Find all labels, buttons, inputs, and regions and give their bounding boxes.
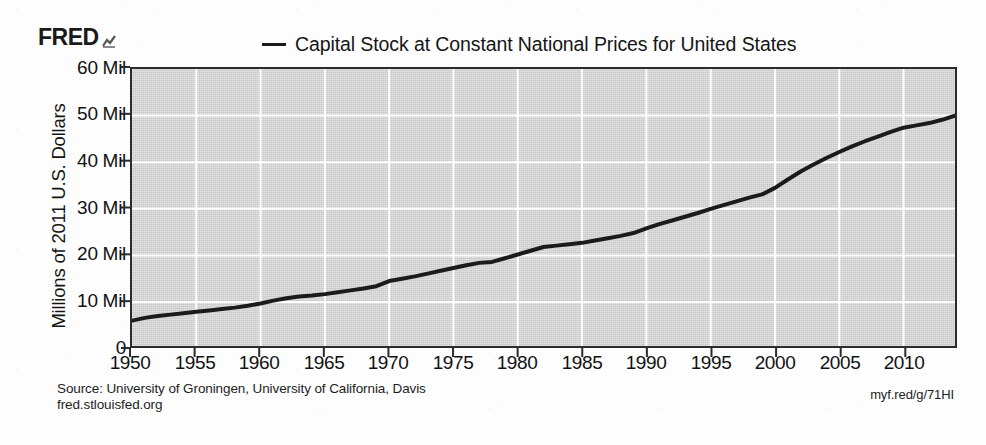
plot-area [130, 67, 957, 348]
legend-series-label: Capital Stock at Constant National Price… [295, 33, 796, 56]
chart-canvas [132, 69, 955, 348]
series-line [132, 116, 955, 321]
chart-legend: Capital Stock at Constant National Price… [262, 33, 796, 56]
y-tick-40: 40 Mil [30, 150, 126, 172]
y-tick-30: 30 Mil [30, 197, 126, 219]
series-layer [132, 116, 955, 321]
y-axis-tick-labels: 0 10 Mil 20 Mil 30 Mil 40 Mil 50 Mil 60 … [26, 0, 126, 445]
source-note: Source: University of Groningen, Univers… [57, 381, 426, 412]
x-tick-2000: 2000 [755, 352, 796, 374]
x-tick-2005: 2005 [820, 352, 861, 374]
y-tick-10: 10 Mil [30, 290, 126, 312]
fred-chart-screenshot: FRED Capital Stock at Constant National … [0, 0, 986, 445]
legend-line-marker-icon [262, 43, 286, 46]
fred-site-url[interactable]: fred.stlouisfed.org [57, 397, 426, 413]
x-tick-1965: 1965 [304, 352, 345, 374]
x-tick-1975: 1975 [433, 352, 474, 374]
x-tick-1970: 1970 [368, 352, 409, 374]
permalink-url[interactable]: myf.red/g/71HI [870, 387, 954, 402]
x-tick-1960: 1960 [239, 352, 280, 374]
y-tick-60: 60 Mil [30, 57, 126, 79]
x-tick-1995: 1995 [691, 352, 732, 374]
x-tick-1985: 1985 [562, 352, 603, 374]
x-tick-1990: 1990 [626, 352, 667, 374]
x-tick-1980: 1980 [497, 352, 538, 374]
x-tick-1955: 1955 [175, 352, 216, 374]
source-line: Source: University of Groningen, Univers… [57, 381, 426, 397]
y-tick-20: 20 Mil [30, 243, 126, 265]
x-tick-1950: 1950 [110, 352, 151, 374]
y-tick-50: 50 Mil [30, 103, 126, 125]
x-tick-2010: 2010 [884, 352, 925, 374]
